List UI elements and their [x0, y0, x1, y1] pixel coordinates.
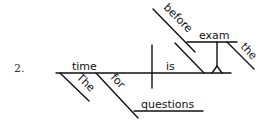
predicate-object-word: exam [199, 29, 230, 42]
sentence-diagram: 2. time is The for questions before exam… [0, 0, 270, 134]
item-number: 2. [14, 62, 25, 75]
predicate-article-word: the [238, 40, 260, 62]
predicate-connector-line [175, 43, 204, 73]
article-word: The [73, 70, 98, 94]
pedestal-base [212, 66, 222, 73]
predicate-preposition-word: before [161, 1, 195, 35]
verb-word: is [166, 60, 175, 73]
object-word: questions [141, 98, 195, 111]
